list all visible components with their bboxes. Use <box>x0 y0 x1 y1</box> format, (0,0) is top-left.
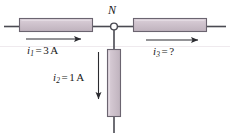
current-label-i2: i2=1A <box>53 72 84 85</box>
current-value-i1: 3 <box>43 44 49 56</box>
resistor-left <box>20 19 93 32</box>
equals-sign-i2: = <box>60 71 69 83</box>
equals-sign-i1: = <box>34 44 43 56</box>
circuit-junction-figure: N i1=3A i3=? i2=1A <box>0 0 230 137</box>
resistor-right <box>134 19 207 32</box>
current-unit-i1: A <box>49 44 58 56</box>
junction-node-marker <box>111 23 118 30</box>
junction-node-label: N <box>108 4 116 16</box>
resistor-bottom <box>108 50 121 117</box>
current-label-i1: i1=3A <box>27 45 58 58</box>
current-label-i3: i3=? <box>153 46 176 59</box>
current-unit-i2: A <box>75 71 84 83</box>
current-unit-i3 <box>174 45 176 57</box>
circuit-schematic-canvas <box>0 0 230 137</box>
current-value-i2: 1 <box>69 71 75 83</box>
equals-sign-i3: = <box>160 45 169 57</box>
